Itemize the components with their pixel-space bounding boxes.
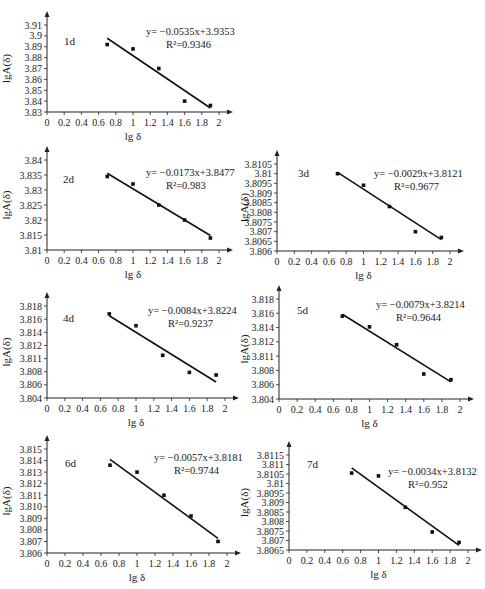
data-point bbox=[336, 172, 340, 176]
x-tick-label: 1.8 bbox=[196, 117, 209, 128]
x-tick-label: 1.6 bbox=[409, 256, 422, 267]
data-point bbox=[183, 99, 187, 103]
x-tick-label: 0.6 bbox=[95, 558, 108, 569]
x-axis-arrow-icon bbox=[227, 110, 233, 115]
y-tick-label: 3.82 bbox=[25, 215, 43, 226]
y-tick-label: 3.8095 bbox=[245, 178, 273, 189]
chart-panel-6d: 00.20.40.60.811.21.41.61.823.8063.8073.8… bbox=[0, 437, 240, 589]
y-tick-label: 3.85 bbox=[25, 85, 43, 96]
data-point bbox=[108, 463, 112, 467]
x-tick-label: 1.6 bbox=[426, 555, 439, 566]
r-squared: R²=0.952 bbox=[408, 479, 448, 490]
y-axis-label: lgA(δ) bbox=[0, 337, 13, 366]
x-tick-label: 1 bbox=[367, 404, 372, 415]
x-tick-label: 1 bbox=[376, 555, 381, 566]
x-axis-label: lg δ bbox=[125, 268, 142, 280]
y-axis-label: lgA(δ) bbox=[0, 190, 13, 219]
x-axis-label: lg δ bbox=[128, 416, 145, 428]
data-point bbox=[131, 182, 135, 186]
data-point bbox=[157, 203, 161, 207]
y-tick-label: 3.812 bbox=[252, 336, 275, 347]
y-tick-label: 3.809 bbox=[250, 188, 273, 199]
x-tick-label: 0.4 bbox=[77, 558, 90, 569]
data-point bbox=[388, 205, 392, 209]
data-point bbox=[134, 324, 138, 328]
regression-equation: y= −0.0535x+3.9353 bbox=[146, 26, 235, 37]
data-point bbox=[449, 378, 453, 382]
x-tick-label: 0.8 bbox=[340, 256, 353, 267]
x-tick-label: 0 bbox=[275, 256, 280, 267]
y-tick-label: 3.804 bbox=[252, 394, 275, 405]
x-axis-arrow-icon bbox=[476, 548, 482, 553]
x-tick-label: 2 bbox=[217, 117, 222, 128]
r-squared: R²=0.9677 bbox=[394, 181, 439, 192]
x-tick-label: 1.2 bbox=[375, 256, 388, 267]
x-tick-label: 0.2 bbox=[59, 558, 72, 569]
y-tick-label: 3.84 bbox=[25, 96, 43, 107]
y-tick-label: 3.815 bbox=[20, 230, 43, 241]
y-axis-label: lgA(δ) bbox=[0, 54, 13, 83]
chart-panel-2d: 00.20.40.60.811.21.41.61.823.813.8153.82… bbox=[0, 150, 240, 288]
panel-label: 2d bbox=[63, 173, 75, 185]
y-tick-label: 3.814 bbox=[20, 455, 43, 466]
x-tick-label: 0.2 bbox=[288, 256, 301, 267]
x-tick-label: 2 bbox=[223, 403, 228, 414]
y-tick-label: 3.807 bbox=[262, 535, 285, 546]
y-axis-arrow-icon bbox=[287, 441, 292, 447]
data-point bbox=[209, 104, 213, 108]
data-point bbox=[105, 43, 109, 47]
data-point bbox=[108, 312, 112, 316]
y-tick-label: 3.9 bbox=[30, 30, 43, 41]
y-tick-label: 3.8105 bbox=[257, 469, 285, 480]
y-tick-label: 3.808 bbox=[250, 207, 273, 218]
x-axis-label: lg δ bbox=[361, 417, 378, 429]
y-axis-label: lgA(δ) bbox=[0, 486, 13, 515]
x-axis-arrow-icon bbox=[227, 248, 233, 253]
x-tick-label: 0.8 bbox=[112, 403, 125, 414]
y-axis-arrow-icon bbox=[45, 435, 50, 441]
x-tick-label: 1.8 bbox=[436, 404, 449, 415]
x-tick-label: 1.8 bbox=[426, 256, 439, 267]
regression-equation: y= −0.0079x+3.8214 bbox=[376, 299, 465, 310]
x-tick-label: 0.6 bbox=[92, 117, 105, 128]
data-point bbox=[183, 218, 187, 222]
x-tick-label: 2 bbox=[448, 256, 453, 267]
x-tick-label: 0.8 bbox=[113, 558, 126, 569]
y-tick-label: 3.91 bbox=[25, 20, 43, 31]
y-tick-label: 3.811 bbox=[20, 353, 42, 364]
x-tick-label: 0 bbox=[45, 558, 50, 569]
y-tick-label: 3.81 bbox=[255, 168, 273, 179]
data-point bbox=[189, 514, 193, 518]
x-tick-label: 1.4 bbox=[399, 404, 412, 415]
x-tick-label: 0.2 bbox=[291, 404, 304, 415]
x-tick-label: 1.8 bbox=[203, 558, 216, 569]
x-tick-label: 0.8 bbox=[110, 255, 123, 266]
x-tick-label: 0.4 bbox=[305, 256, 318, 267]
data-point bbox=[188, 371, 192, 375]
x-tick-label: 0.4 bbox=[309, 404, 322, 415]
x-tick-label: 1.6 bbox=[183, 403, 196, 414]
x-tick-label: 0.4 bbox=[75, 117, 88, 128]
x-tick-label: 1.2 bbox=[390, 555, 403, 566]
y-tick-label: 3.8065 bbox=[245, 236, 273, 247]
x-tick-label: 0.2 bbox=[301, 555, 314, 566]
regression-equation: y= −0.0084x+3.8224 bbox=[148, 305, 237, 316]
y-tick-label: 3.8115 bbox=[257, 450, 284, 461]
x-tick-label: 1.6 bbox=[418, 404, 431, 415]
y-tick-label: 3.83 bbox=[25, 107, 43, 118]
chart-svg: 00.20.40.60.811.21.41.61.823.8043.8063.8… bbox=[238, 287, 485, 435]
x-axis-arrow-icon bbox=[458, 249, 464, 254]
x-tick-label: 1.4 bbox=[167, 558, 180, 569]
y-tick-label: 3.813 bbox=[20, 467, 43, 478]
panel-label: 6d bbox=[65, 457, 77, 469]
y-tick-label: 3.804 bbox=[20, 393, 43, 404]
x-tick-label: 0.6 bbox=[92, 255, 105, 266]
y-tick-label: 3.825 bbox=[20, 200, 43, 211]
x-tick-label: 1 bbox=[135, 558, 140, 569]
x-tick-label: 0.8 bbox=[110, 117, 123, 128]
y-tick-label: 3.8075 bbox=[257, 526, 285, 537]
data-point bbox=[341, 314, 345, 318]
x-tick-label: 1.4 bbox=[165, 403, 178, 414]
data-point bbox=[422, 372, 426, 376]
y-tick-label: 3.806 bbox=[252, 379, 275, 390]
